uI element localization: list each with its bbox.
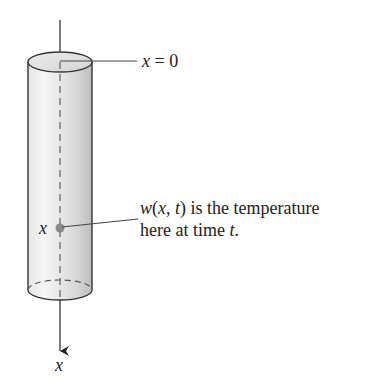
- annotation-line-2: here at time t.: [140, 220, 239, 240]
- point-x-label: x: [38, 218, 47, 238]
- point-marker: [56, 224, 65, 233]
- heat-rod-diagram: x = 0 x w(x, t) is the temperature here …: [0, 0, 372, 386]
- annotation-line-1: w(x, t) is the temperature: [140, 198, 319, 219]
- rod-body: [28, 62, 92, 300]
- axis-x-label: x: [54, 355, 63, 375]
- x-zero-label: x = 0: [141, 51, 178, 71]
